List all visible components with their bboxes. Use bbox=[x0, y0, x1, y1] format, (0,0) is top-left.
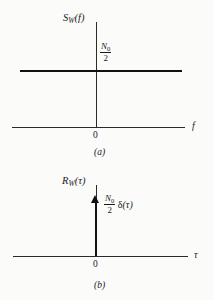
whitenoise-figure: SW(f) N0 2 0 f (a) RW(τ) N0 bbox=[0, 0, 214, 300]
panel-a-psd-line bbox=[20, 70, 182, 72]
panel-b-numerator-subscript: 0 bbox=[111, 197, 114, 204]
panel-b-horizontal-axis-label: τ bbox=[194, 250, 198, 260]
panel-b-fraction-numerator: N0 bbox=[104, 194, 115, 204]
panel-a-axis-label-suffix: (f) bbox=[75, 12, 85, 23]
panel-a-value-label: N0 2 bbox=[100, 42, 111, 63]
panel-b-impulse-stem bbox=[95, 203, 97, 256]
panel-a-fraction: N0 2 bbox=[100, 42, 111, 63]
panel-a-origin-label: 0 bbox=[93, 131, 98, 141]
panel-a-vertical-axis-label: SW(f) bbox=[63, 13, 84, 24]
panel-b-vertical-axis-label: RW(τ) bbox=[62, 176, 85, 187]
panel-b-fraction: N0 2 bbox=[104, 194, 115, 215]
panel-a-fraction-numerator: N0 bbox=[100, 42, 111, 52]
panel-a-fraction-denominator: 2 bbox=[100, 53, 111, 63]
panel-b-delta-term: δ(τ) bbox=[115, 200, 132, 210]
panel-b-origin-label: 0 bbox=[93, 260, 98, 270]
delta-argument: (τ) bbox=[122, 199, 132, 210]
panel-b-impulse-arrowhead bbox=[91, 195, 99, 203]
panel-b-fraction-denominator: 2 bbox=[104, 205, 115, 215]
panel-b-caption: (b) bbox=[94, 281, 105, 291]
panel-b-axis-label-suffix: (τ) bbox=[75, 175, 86, 186]
panel-a-horizontal-axis bbox=[12, 127, 185, 128]
panel-b-value-label: N0 2 δ(τ) bbox=[104, 194, 133, 215]
panel-a-numerator-subscript: 0 bbox=[107, 45, 110, 52]
panel-b-horizontal-axis bbox=[13, 256, 188, 257]
panel-a-horizontal-axis-label: f bbox=[192, 121, 195, 131]
panel-a-vertical-axis bbox=[96, 22, 97, 128]
panel-a-caption: (a) bbox=[94, 148, 105, 158]
